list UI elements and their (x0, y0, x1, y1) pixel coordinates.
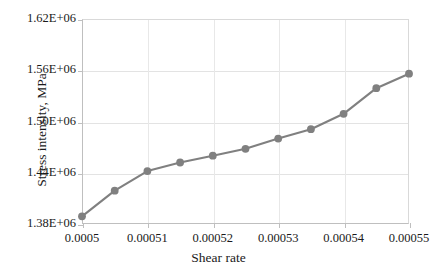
y-axis-tick-label: 1.50E+06 (16, 114, 76, 129)
chart-container: Stress intensity, MPa 1.62E+061.56E+061.… (0, 0, 437, 273)
y-axis-tick (78, 71, 83, 72)
x-axis-tick-label: 0.00051 (111, 231, 183, 246)
y-axis-tick (78, 20, 83, 21)
x-axis-tick-label: 0.0005 (46, 231, 118, 246)
y-axis-tick-label: 1.44E+06 (16, 165, 76, 180)
y-axis-tick-label: 1.38E+06 (16, 216, 76, 231)
gridline-vertical (345, 20, 346, 223)
x-axis-tick (345, 223, 346, 228)
x-axis-tick (83, 223, 84, 228)
x-axis-tick-label: 0.00052 (177, 231, 249, 246)
x-axis-tick (148, 223, 149, 228)
x-axis-tick (214, 223, 215, 228)
x-axis-tick-label: 0.00053 (242, 231, 314, 246)
x-axis-tick-label: 0.00054 (308, 231, 380, 246)
y-axis-tick (78, 174, 83, 175)
gridline-vertical (214, 20, 215, 223)
x-axis-tick (279, 223, 280, 228)
x-axis-title: Shear rate (0, 250, 437, 266)
y-axis-title: Stress intensity, MPa (34, 20, 50, 240)
x-axis-tick (410, 223, 411, 228)
gridline-vertical (148, 20, 149, 223)
x-axis-tick-label: 0.00055 (373, 231, 437, 246)
y-axis-tick-label: 1.62E+06 (16, 11, 76, 26)
gridline-horizontal (83, 71, 408, 72)
gridline-vertical (279, 20, 280, 223)
y-axis-tick-label: 1.56E+06 (16, 62, 76, 77)
plot-area (82, 19, 409, 224)
y-axis-tick (78, 123, 83, 124)
gridline-horizontal (83, 174, 408, 175)
gridline-horizontal (83, 123, 408, 124)
